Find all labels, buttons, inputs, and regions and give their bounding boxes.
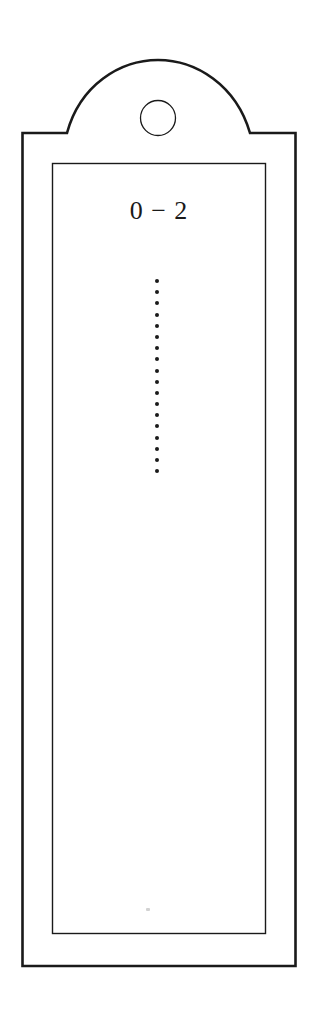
speck-mark [146,908,150,911]
dot [155,447,159,451]
dot [155,346,159,350]
dot [155,391,159,395]
dot [155,369,159,373]
dot [155,380,159,384]
dotted-line [155,279,160,480]
dot [155,335,159,339]
bookmark-label: 0 − 2 [52,196,266,226]
dot [155,458,159,462]
dot [155,402,159,406]
dot [155,290,159,294]
dot [155,301,159,305]
dot [155,324,159,328]
dot [155,313,159,317]
dot [155,436,159,440]
dot [155,279,159,283]
dot [155,424,159,428]
dot [155,413,159,417]
bookmark-outline [0,0,317,1028]
dot [155,469,159,473]
dot [155,357,159,361]
